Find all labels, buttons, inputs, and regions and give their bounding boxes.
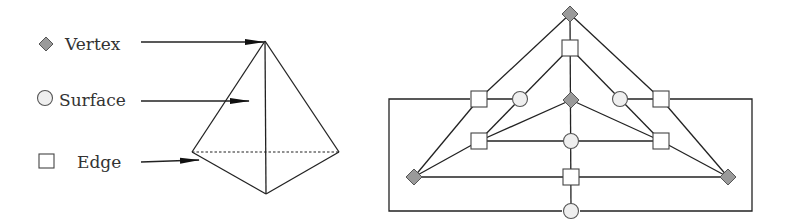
circle-icon: [38, 91, 53, 106]
edge-node: [653, 91, 669, 107]
legend-item-vertex: Vertex: [39, 34, 264, 54]
vertex-node: [406, 169, 422, 185]
edge-node: [471, 91, 487, 107]
legend-item-edge: Edge: [39, 152, 199, 172]
tetrahedron: [192, 41, 339, 194]
legend-label-surface: Surface: [59, 90, 126, 110]
edge-node: [562, 40, 578, 56]
square-icon: [39, 154, 54, 168]
graph: [389, 6, 752, 219]
surface-node: [564, 204, 579, 219]
vertex-node: [563, 92, 579, 108]
surface-node: [513, 92, 528, 107]
diamond-icon: [39, 37, 53, 51]
arrow-edge: [141, 160, 199, 162]
diagram-canvas: Vertex Surface Edge: [0, 0, 790, 224]
legend-item-surface: Surface: [38, 90, 250, 110]
legend-label-vertex: Vertex: [64, 34, 121, 54]
edge-node: [471, 133, 487, 149]
edge-node: [653, 133, 669, 149]
legend: Vertex Surface Edge: [38, 34, 265, 172]
edge-node: [563, 169, 579, 185]
legend-label-edge: Edge: [77, 152, 121, 172]
surface-node: [564, 134, 579, 149]
surface-node: [613, 92, 628, 107]
